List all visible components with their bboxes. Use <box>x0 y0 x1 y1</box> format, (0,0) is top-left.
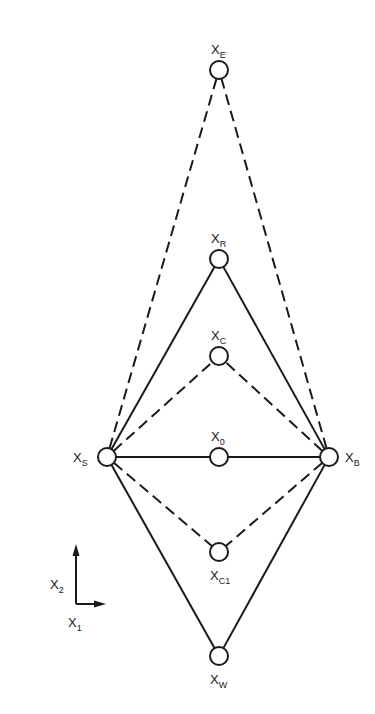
edge-xs-xc1 <box>114 463 212 546</box>
node-label: XW <box>210 672 228 690</box>
node-label: XE <box>211 42 226 60</box>
edge-xb-xc1 <box>226 463 322 546</box>
edge-xs-xw <box>111 465 214 648</box>
node-xs: XS <box>73 448 116 468</box>
node-circle-icon <box>320 448 338 466</box>
edge-xb-xr <box>223 267 324 449</box>
node-circle-icon <box>210 543 228 561</box>
edge-xb-xw <box>223 465 324 648</box>
node-xc: XC <box>210 328 228 365</box>
axes-indicator: X2 X1 <box>50 544 106 633</box>
nodes-group: XEXRXCX0XSXBXC1XW <box>73 42 360 690</box>
node-xr: XR <box>210 231 228 268</box>
edge-xs-xc <box>114 362 213 451</box>
simplex-diagram: XEXRXCX0XSXBXC1XW X2 X1 <box>0 0 375 714</box>
node-xe: XE <box>210 42 228 79</box>
node-label: X0 <box>211 429 225 447</box>
node-xb: XB <box>320 448 360 468</box>
node-xw: XW <box>210 647 228 690</box>
node-label: XR <box>211 231 227 249</box>
x1-axis-label: X1 <box>68 615 82 633</box>
edge-xb-xe <box>221 79 326 449</box>
node-label: XB <box>345 450 360 468</box>
edge-xs-xe <box>110 79 217 449</box>
node-circle-icon <box>210 647 228 665</box>
node-xc1: XC1 <box>210 543 230 586</box>
node-circle-icon <box>210 448 228 466</box>
node-x0: X0 <box>210 429 228 466</box>
node-circle-icon <box>210 250 228 268</box>
node-label: XS <box>73 450 88 468</box>
node-circle-icon <box>98 448 116 466</box>
node-circle-icon <box>210 347 228 365</box>
node-label: XC <box>211 328 227 346</box>
x2-axis-label: X2 <box>50 577 64 595</box>
x1-arrowhead-icon <box>94 601 106 608</box>
x2-arrowhead-icon <box>73 544 80 556</box>
node-label: XC1 <box>210 568 230 586</box>
node-circle-icon <box>210 61 228 79</box>
edge-xb-xc <box>226 362 323 451</box>
edge-xs-xr <box>111 267 214 449</box>
